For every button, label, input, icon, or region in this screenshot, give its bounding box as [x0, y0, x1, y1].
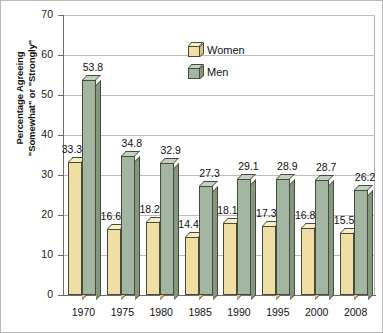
bar-value-label: 28.9	[270, 160, 304, 172]
bar-women-2000[interactable]	[301, 228, 315, 295]
bar-women-1990[interactable]	[223, 223, 237, 295]
bar-value-label: 27.3	[193, 167, 227, 179]
legend-item-women: Women	[187, 39, 245, 61]
bar-women-1970[interactable]	[68, 162, 82, 295]
y-axis-tick-label: 0	[13, 288, 53, 300]
bar-men-1985[interactable]	[199, 186, 213, 295]
bar-value-label: 53.8	[76, 61, 110, 73]
y-axis-tick-label: 70	[13, 8, 53, 20]
y-axis-tick-mark	[58, 15, 64, 16]
bar-men-1970[interactable]	[82, 80, 96, 295]
bar-women-1975[interactable]	[107, 229, 121, 295]
bar-value-label: 34.8	[115, 137, 149, 149]
men-cube-icon	[188, 66, 202, 79]
bar-men-1995[interactable]	[276, 179, 290, 295]
x-axis-tick-label-1970: 1970	[61, 306, 105, 318]
y-axis-tick-mark	[58, 175, 64, 176]
y-axis-tick-mark	[58, 255, 64, 256]
y-axis-tick-label: 40	[13, 128, 53, 140]
bar-men-1990[interactable]	[237, 179, 251, 295]
bar-women-1985[interactable]	[185, 237, 199, 295]
legend-item-men: Men	[187, 61, 245, 83]
bar-women-1995[interactable]	[262, 226, 276, 295]
gridline	[64, 135, 375, 136]
legend-label-women: Women	[207, 44, 245, 56]
y-axis-tick-mark	[58, 215, 64, 216]
women-cube-icon	[188, 44, 202, 57]
bar-value-label: 28.7	[309, 161, 343, 173]
gridline	[64, 95, 375, 96]
x-axis-tick-label-1990: 1990	[217, 306, 261, 318]
y-axis-tick-mark	[58, 295, 64, 296]
legend-label-men: Men	[207, 66, 228, 78]
bar-value-label: 32.9	[154, 144, 188, 156]
y-axis-line	[63, 15, 64, 296]
y-axis-tick-mark	[58, 135, 64, 136]
x-axis-tick-label-1995: 1995	[256, 306, 300, 318]
bar-women-2008[interactable]	[340, 233, 354, 295]
y-axis-tick-label: 20	[13, 208, 53, 220]
bar-men-2008[interactable]	[354, 190, 368, 295]
bar-men-2000[interactable]	[315, 180, 329, 295]
x-axis-tick-label-1975: 1975	[100, 306, 144, 318]
legend: Women Men	[187, 39, 245, 83]
y-axis-tick-mark	[58, 95, 64, 96]
x-axis-tick-label-2000: 2000	[295, 306, 339, 318]
bar-chart: Percentage Agreeing "Somewhat" or "Stron…	[0, 0, 383, 333]
x-axis-tick-label-2008: 2008	[334, 306, 378, 318]
x-axis-tick-label-1980: 1980	[139, 306, 183, 318]
bar-men-1975[interactable]	[121, 156, 135, 295]
y-axis-tick-label: 60	[13, 48, 53, 60]
bar-value-label: 29.1	[231, 160, 265, 172]
y-axis-tick-label: 10	[13, 248, 53, 260]
x-axis-tick-label-1985: 1985	[178, 306, 222, 318]
y-axis-tick-label: 30	[13, 168, 53, 180]
bar-women-1980[interactable]	[146, 222, 160, 295]
bar-value-label: 26.2	[348, 171, 382, 183]
gridline	[64, 15, 375, 16]
y-axis-tick-label: 50	[13, 88, 53, 100]
y-axis-tick-mark	[58, 55, 64, 56]
